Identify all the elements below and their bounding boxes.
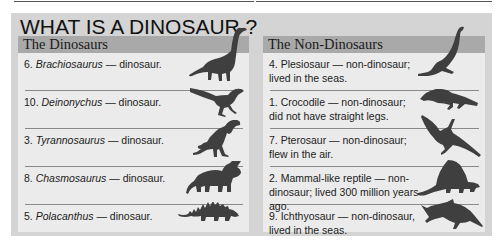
pterosaur-silhouette-icon [420, 115, 482, 159]
item-text: 6. Brachiosaurus — dinosaur. [24, 57, 162, 71]
item-name: Tyrannosaurus [36, 134, 105, 146]
item-number: 3. [24, 134, 33, 146]
tyrannosaurus-silhouette-icon [193, 120, 241, 160]
item-verdict: — dinosaur. [108, 134, 164, 146]
mammal-like-reptile-silhouette-icon [418, 160, 482, 196]
ichthyosaur-silhouette-icon [421, 199, 483, 231]
item-text: 9. Ichthyosaur — non-dinosaur, lived in … [269, 209, 419, 237]
item-text: 1. Crocodile — non-dinosaur; did not hav… [269, 95, 419, 123]
item-number: 10. [24, 96, 39, 108]
item-verdict: — dinosaur. [96, 210, 152, 222]
top-rule-right [256, 0, 492, 2]
brachiosaurus-silhouette-icon [185, 26, 249, 82]
chasmosaurus-silhouette-icon [183, 161, 243, 197]
item-name: Chasmosaurus [36, 172, 107, 184]
item-number: 8. [24, 172, 33, 184]
item-verdict: — dinosaur. [106, 58, 162, 70]
item-name: Polacanthus [36, 210, 94, 222]
item-text: 5. Polacanthus — dinosaur. [24, 209, 152, 223]
item-text: 10. Deinonychus — dinosaur. [24, 95, 161, 109]
item-number: 5. [24, 210, 33, 222]
polacanthus-silhouette-icon [178, 202, 242, 230]
item-name: Brachiosaurus [36, 58, 103, 70]
item-number: 6. [24, 58, 33, 70]
item-text: 4. Plesiosaur — non-dinosaur; lived in t… [269, 57, 419, 85]
item-name: Deinonychus [42, 96, 103, 108]
top-rule [14, 0, 254, 2]
item-verdict: — dinosaur. [109, 172, 165, 184]
plesiosaur-silhouette-icon [418, 26, 482, 82]
item-text: 3. Tyrannosaurus — dinosaur. [24, 133, 164, 147]
item-verdict: — dinosaur. [105, 96, 161, 108]
deinonychus-silhouette-icon [190, 84, 246, 120]
item-text: 7. Pterosaur — non-dinosaur; flew in the… [269, 133, 419, 161]
item-text: 8. Chasmosaurus — dinosaur. [24, 171, 165, 185]
crocodile-silhouette-icon [420, 89, 480, 117]
